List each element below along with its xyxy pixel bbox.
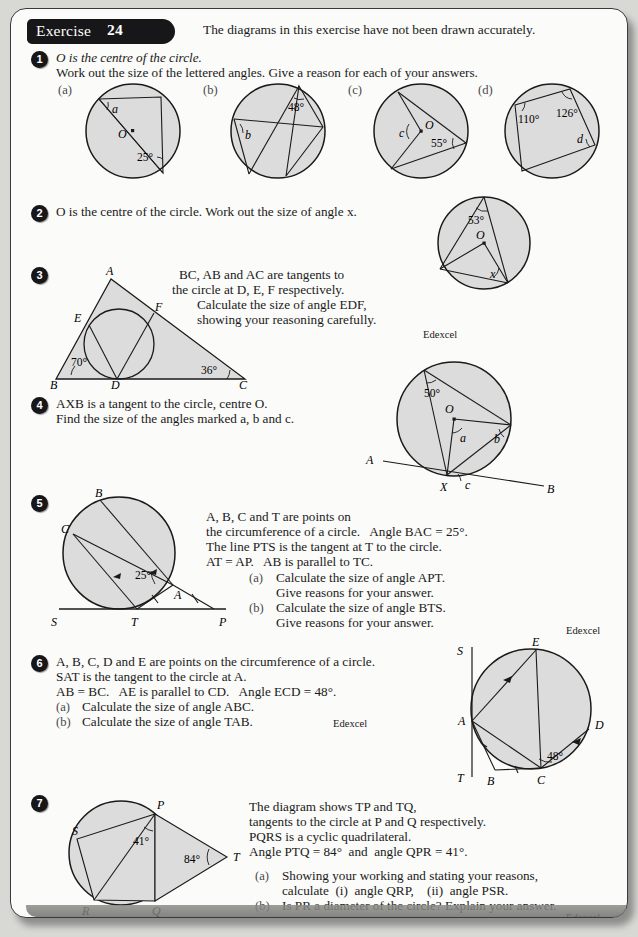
textbook-page: Exercise 24 The diagrams in this exercis… (10, 8, 628, 918)
exercise-number: 24 (107, 21, 123, 39)
q7-angle-41: 41° (133, 835, 150, 847)
q4-centre-label: O (445, 402, 454, 416)
q5-point-B: B (95, 486, 103, 500)
q4-diagram: 50° O a b c A X B (366, 357, 606, 492)
q5-point-A: A (173, 588, 182, 602)
q4-angle-b: b (494, 432, 500, 446)
q4-angle-50: 50° (424, 387, 441, 399)
q6-line-3: AB = BC. AE is parallel to CD. Angle ECD… (56, 684, 336, 700)
q3-point-D: D (110, 378, 120, 392)
q1c-angle-c: c (399, 126, 405, 140)
q7-subpart-a-line-2: calculate (i) angle QRP, (ii) angle PSR. (282, 883, 508, 899)
q6-subpart-a-line-1: Calculate the size of angle ABC. (82, 699, 254, 715)
q1c-angle-55: 55° (431, 137, 448, 149)
q5-subpart-b-line-1: Calculate the size of angle BTS. (276, 600, 446, 616)
q5-subpart-b-line-2: Give reasons for your answer. (276, 615, 434, 631)
q1b-angle-48: 48° (288, 101, 305, 113)
question-number-2: 2 (31, 205, 48, 222)
q4-point-B: B (547, 482, 555, 496)
q5-angle-25: 25° (135, 569, 152, 581)
q6-attribution: Edexcel (333, 718, 367, 729)
q6-point-D: D (594, 718, 604, 732)
q7-line-2: tangents to the circle at P and Q respec… (249, 814, 486, 830)
q7-point-T: T (233, 850, 241, 864)
q1-line-1: O is the centre of the circle. (56, 50, 202, 66)
q6-point-C: C (537, 773, 546, 787)
q2-centre-label: O (476, 228, 485, 242)
q6-point-A: A (457, 714, 466, 728)
q2-line-1: O is the centre of the circle. Work out … (56, 204, 357, 220)
q3-attribution: Edexcel (423, 329, 457, 340)
q6-subpart-b-tag: (b) (56, 715, 71, 730)
q7-angle-84: 84° (184, 853, 201, 865)
q6-point-T: T (457, 771, 465, 785)
q6-point-B: B (487, 774, 495, 788)
q5-point-P: P (218, 615, 227, 629)
q3-diagram: A B C D E F 70° 36° (49, 267, 269, 389)
q5-attribution: Edexcel (566, 625, 600, 636)
q1a-centre-label: O (118, 127, 127, 141)
q1b-diagram: 48° b (226, 81, 341, 186)
q5-point-C: C (61, 522, 70, 536)
q1c-centre-label: O (425, 118, 434, 132)
q1a-angle-a: a (112, 102, 118, 116)
q3-vertex-B: B (50, 378, 58, 392)
q6-angle-48: 48° (547, 750, 564, 762)
q5-subpart-a-line-1: Calculate the size of angle APT. (276, 570, 445, 586)
q4-line-2: Find the size of the angles marked a, b … (56, 411, 294, 427)
question-number-7: 7 (31, 795, 48, 812)
q7-diagram: 41° 84° P S R Q T (49, 791, 264, 918)
page-bottom-shadow (26, 905, 626, 917)
q1b-angle-b: b (245, 128, 251, 142)
q3-point-F: F (154, 300, 163, 314)
q4-angle-a: a (460, 431, 466, 445)
q5-diagram: 25° B C A S T P (51, 491, 256, 636)
question-number-5: 5 (31, 495, 48, 512)
q1-line-2: Work out the size of the lettered angles… (56, 65, 478, 81)
q1d-angle-d: d (577, 132, 584, 146)
q7-line-1: The diagram shows TP and TQ, (249, 799, 417, 815)
q5-point-T: T (131, 615, 139, 629)
q1-part-b-label: (b) (203, 83, 218, 98)
q5-subpart-a-line-2: Give reasons for your answer. (276, 585, 434, 601)
q3-vertex-C: C (239, 378, 248, 392)
q6-diagram: 48° S A B C D E T (429, 637, 628, 787)
q1d-diagram: 110° 126° d (500, 81, 615, 186)
q6-subpart-b-line-1: Calculate the size of angle TAB. (82, 714, 253, 730)
question-number-6: 6 (31, 655, 48, 672)
q1c-diagram: c O 55° (369, 81, 484, 186)
q6-subpart-a-tag: (a) (56, 700, 70, 715)
q1a-angle-25: 25° (137, 151, 154, 163)
q6-line-1: A, B, C, D and E are points on the circu… (56, 654, 375, 670)
q4-line-1: AXB is a tangent to the circle, centre O… (56, 396, 268, 412)
q1d-angle-126: 126° (556, 107, 578, 119)
q2-diagram: 53° O x (426, 191, 546, 296)
q7-subpart-a-line-1: Showing your working and stating your re… (282, 868, 538, 884)
q4-angle-c: c (465, 478, 471, 492)
q3-angle-36: 36° (201, 364, 218, 376)
q5-point-S: S (51, 615, 57, 629)
q3-angle-70: 70° (71, 356, 88, 368)
q7-point-S: S (72, 824, 78, 838)
exercise-note: The diagrams in this exercise have not b… (203, 22, 535, 38)
q7-line-4: Angle PTQ = 84° and angle QPR = 41°. (249, 844, 467, 860)
q6-point-E: E (531, 635, 540, 649)
q1-part-a-label: (a) (58, 83, 72, 98)
question-number-3: 3 (31, 267, 48, 284)
q1a-diagram: a O 25° (81, 81, 191, 186)
q3-vertex-A: A (105, 264, 114, 278)
exercise-word: Exercise (36, 22, 91, 40)
q1-part-c-label: (c) (348, 83, 362, 98)
q4-point-A: A (365, 453, 374, 467)
exercise-header-tab: Exercise 24 (27, 19, 175, 44)
q4-point-X: X (439, 480, 448, 494)
q2-angle-x: x (489, 267, 496, 281)
q7-point-P: P (156, 798, 165, 812)
q1d-angle-110: 110° (518, 113, 540, 125)
q6-line-2: SAT is the tangent to the circle at A. (56, 669, 247, 685)
q7-line-3: PQRS is a cyclic quadrilateral. (249, 829, 411, 845)
q3-point-E: E (73, 311, 82, 325)
q6-point-S: S (457, 644, 463, 658)
question-number-1: 1 (31, 51, 48, 68)
question-number-4: 4 (31, 397, 48, 414)
